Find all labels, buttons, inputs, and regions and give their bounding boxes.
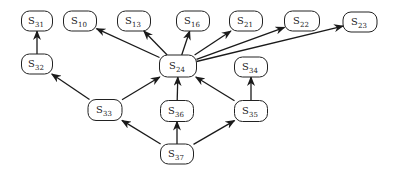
node-s34: S34 bbox=[235, 57, 268, 77]
edge-s33-to-s32 bbox=[52, 74, 90, 100]
node-s23: S23 bbox=[343, 12, 377, 32]
edge-s24-to-s21 bbox=[195, 31, 231, 55]
node-s33: S33 bbox=[88, 100, 122, 121]
node-s24: S24 bbox=[160, 55, 197, 77]
edge-s37-to-s33 bbox=[122, 120, 161, 144]
node-s32: S32 bbox=[22, 54, 53, 74]
edge-s37-to-s35 bbox=[194, 121, 235, 145]
directed-graph: S31S10S13S16S21S22S23S32S24S34S33S36S35S… bbox=[0, 0, 394, 178]
edge-s36-to-s24 bbox=[177, 77, 178, 101]
edge-s35-to-s24 bbox=[196, 77, 235, 101]
edge-s24-to-s16 bbox=[182, 31, 190, 55]
node-s13: S13 bbox=[118, 11, 151, 31]
node-s35: S35 bbox=[235, 101, 268, 122]
node-s10: S10 bbox=[64, 11, 97, 31]
node-s16: S16 bbox=[177, 11, 210, 31]
node-s36: S36 bbox=[161, 101, 194, 122]
edges-layer bbox=[37, 26, 343, 144]
edge-s24-to-s10 bbox=[97, 29, 160, 58]
node-s31: S31 bbox=[22, 11, 53, 31]
edge-s33-to-s24 bbox=[122, 77, 160, 100]
node-s37: S37 bbox=[161, 144, 194, 164]
node-s22: S22 bbox=[285, 11, 320, 31]
edge-s24-to-s23 bbox=[197, 26, 344, 61]
node-s21: S21 bbox=[230, 11, 263, 31]
